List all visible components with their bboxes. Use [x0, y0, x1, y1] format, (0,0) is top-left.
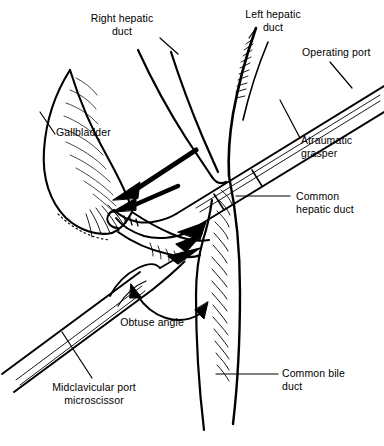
label-gallbladder: Gallbladder	[56, 126, 132, 139]
label-common-bile-duct: Common bile duct	[282, 367, 372, 392]
label-atraumatic-grasper: Atraumatic grasper	[301, 134, 381, 159]
label-common-hepatic-duct: Common hepatic duct	[296, 190, 382, 215]
label-operating-port: Operating port	[302, 46, 382, 59]
label-obtuse-angle: Obtuse angle	[106, 316, 198, 329]
label-right-hepatic-duct: Right hepatic duct	[74, 12, 170, 37]
surgical-illustration-figure: Right hepatic duct Left hepatic duct Ope…	[0, 0, 384, 446]
label-left-hepatic-duct: Left hepatic duct	[228, 8, 318, 33]
label-midclavicular-port-microscissor: Midclavicular port microscissor	[36, 381, 152, 406]
